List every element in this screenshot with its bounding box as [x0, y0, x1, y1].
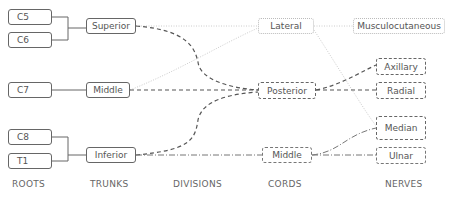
brachial-plexus-diagram: C5 C6 C7 C8 T1 Superior Middle Inferior … [0, 0, 452, 200]
root-c5: C5 [8, 9, 52, 25]
lateral-division-lines [130, 26, 378, 128]
nerve-axillary: Axillary [376, 58, 426, 75]
column-label-divisions: DIVISIONS [173, 179, 222, 189]
cord-lateral: Lateral [258, 18, 314, 34]
posterior-division-lines [130, 26, 376, 155]
nerve-ulnar: Ulnar [376, 147, 426, 164]
root-c8: C8 [8, 129, 52, 145]
column-label-nerves: NERVES [385, 179, 423, 189]
root-t1: T1 [8, 153, 52, 169]
column-label-cords: CORDS [268, 179, 302, 189]
medial-division-lines [136, 128, 376, 155]
trunk-middle: Middle [86, 82, 130, 98]
root-c7: C7 [8, 82, 52, 98]
column-label-roots: ROOTS [12, 179, 45, 189]
trunk-inferior: Inferior [86, 147, 136, 163]
column-label-trunks: TRUNKS [90, 179, 129, 189]
cord-posterior: Posterior [258, 82, 316, 99]
trunk-superior: Superior [86, 18, 136, 34]
nerve-radial: Radial [376, 82, 426, 99]
root-c6: C6 [8, 32, 52, 48]
nerve-musculocutaneous: Musculocutaneous [353, 18, 445, 34]
root-trunk-connectors [52, 17, 86, 161]
nerve-median: Median [376, 116, 426, 140]
cord-medial: Middle [262, 147, 312, 163]
